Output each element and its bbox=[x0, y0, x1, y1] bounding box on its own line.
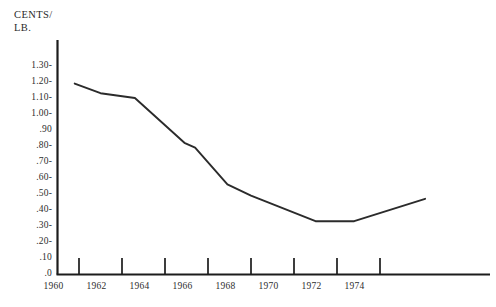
plot-area bbox=[0, 0, 496, 307]
axis-lines bbox=[57, 40, 491, 275]
data-series-line bbox=[75, 84, 425, 222]
x-axis-tick-marks bbox=[79, 258, 380, 274]
line-chart-figure: PRICE PER POUND CENTS/ LB. 1.30-1.20-1.1… bbox=[0, 0, 496, 307]
